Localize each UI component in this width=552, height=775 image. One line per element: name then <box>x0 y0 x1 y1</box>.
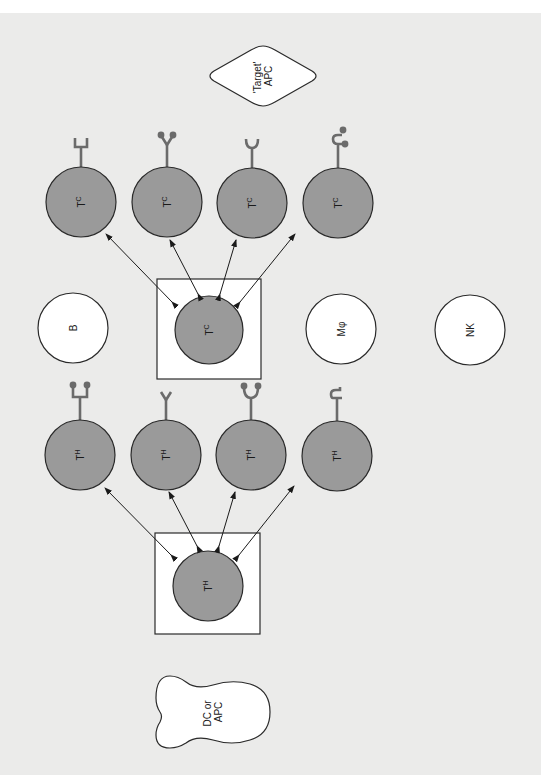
th-progeny-cell-1: TH <box>45 420 115 490</box>
dc-apc-cell: DC or APC <box>156 676 270 748</box>
dc-apc-label-line2: APC <box>213 702 224 723</box>
th-progeny-cell-3: TH <box>216 420 286 490</box>
target-apc-label-line2: APC <box>263 66 274 87</box>
svg-text:B: B <box>68 324 79 331</box>
tc-precursor-box: TC <box>157 279 261 379</box>
macrophage-cell: Mφ <box>306 294 376 364</box>
tc-progeny-cell-4: TC <box>303 168 373 238</box>
th-progeny-cell-4: TH <box>302 421 372 491</box>
tc-progeny-cell-2: TC <box>132 167 202 237</box>
svg-text:Mφ: Mφ <box>336 321 347 336</box>
target-apc-label-line1: 'Target' <box>252 62 263 94</box>
svg-text:NK: NK <box>465 323 476 337</box>
b-cell: B <box>38 293 108 363</box>
immune-cell-diagram: 'Target' APC TC <box>0 0 552 775</box>
svg-text:DC or APC: DC or APC <box>202 698 224 727</box>
tc-progeny-cell-1: TC <box>46 167 116 237</box>
th-progeny-cell-2: TH <box>131 420 201 490</box>
diagram-background <box>0 13 541 775</box>
tc-progeny-cell-3: TC <box>217 168 287 238</box>
nk-cell: NK <box>435 295 505 365</box>
dc-apc-label-line1: DC or <box>202 700 213 727</box>
